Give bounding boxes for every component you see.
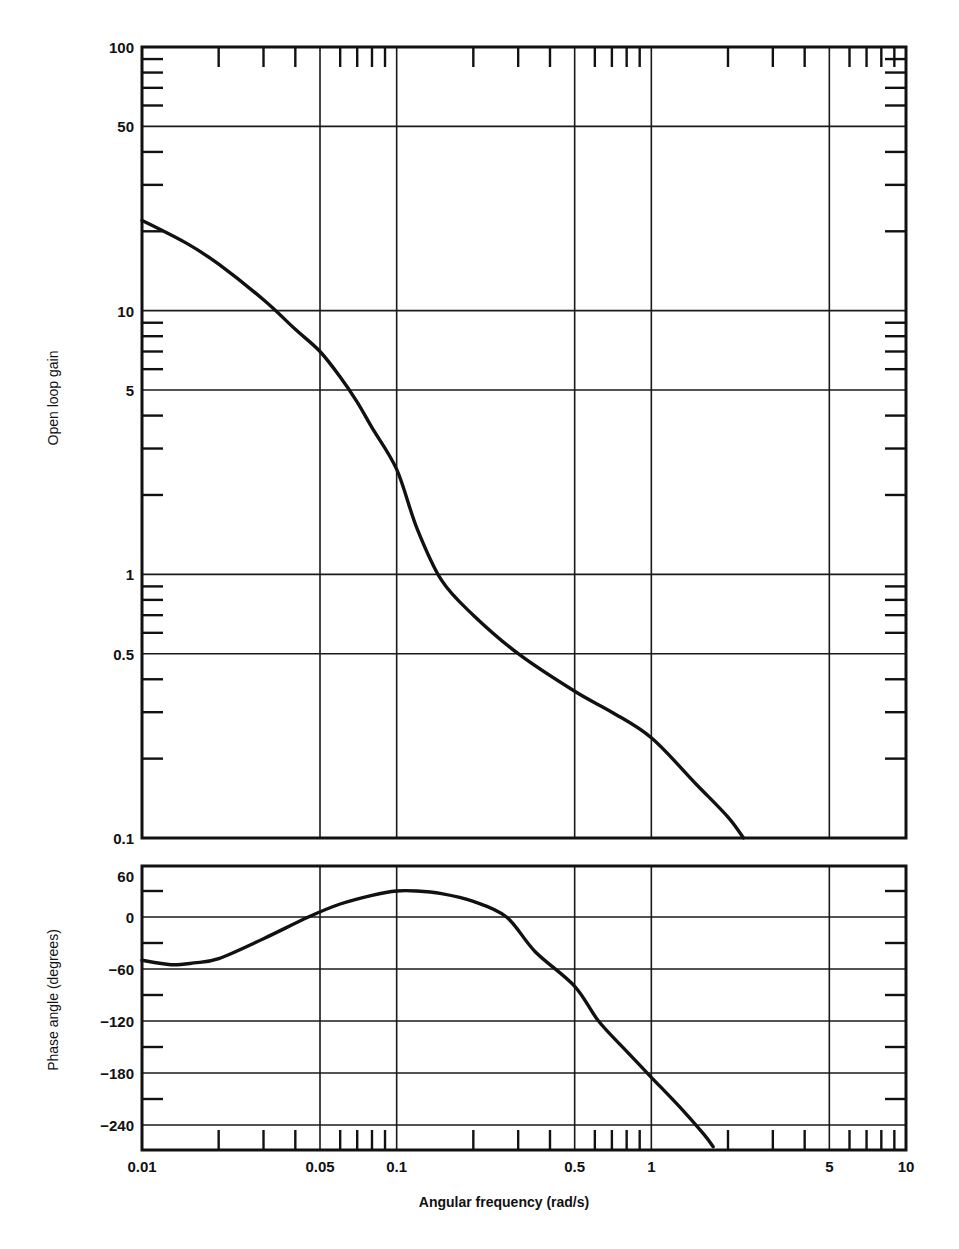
x-tick-label: 0.05: [305, 1158, 334, 1175]
x-axis-title: Angular frequency (rad/s): [419, 1194, 589, 1210]
phase-y-tick-label: −120: [100, 1013, 134, 1030]
gain-y-tick-label: 100: [109, 39, 134, 56]
gain-curve: [142, 220, 744, 838]
gain-y-tick-label: 1: [126, 566, 134, 583]
phase-panel: 600−60−120−180−240 Phase angle (degrees): [45, 866, 906, 1150]
bode-plot: 1005010510.50.1 Open loop gain 600−60−12…: [0, 0, 959, 1249]
gain-grid: [142, 47, 906, 838]
phase-curve: [142, 891, 713, 1147]
gain-y-tick-label: 5: [126, 382, 134, 399]
gain-frame: [142, 47, 906, 838]
gain-y-tick-label: 0.5: [113, 646, 134, 663]
x-tick-label: 0.01: [127, 1158, 156, 1175]
x-tick-label: 10: [898, 1158, 915, 1175]
x-tick-labels: 0.010.050.10.51510: [127, 1158, 914, 1175]
phase-y-tick-label: 0: [126, 909, 134, 926]
gain-y-tick-label: 0.1: [113, 830, 134, 847]
gain-y-axis-title: Open loop gain: [45, 351, 61, 446]
gain-y-tick-label: 50: [117, 118, 134, 135]
phase-grid: [142, 866, 906, 1150]
x-tick-label: 5: [825, 1158, 833, 1175]
phase-y-tick-label: −60: [109, 961, 134, 978]
gain-panel: 1005010510.50.1 Open loop gain: [45, 39, 906, 847]
phase-y-tick-label: 60: [117, 868, 134, 885]
phase-y-axis-title: Phase angle (degrees): [45, 929, 61, 1071]
phase-y-tick-labels: 600−60−120−180−240: [100, 868, 134, 1134]
phase-y-tick-label: −240: [100, 1117, 134, 1134]
phase-y-tick-label: −180: [100, 1065, 134, 1082]
gain-y-tick-labels: 1005010510.50.1: [109, 39, 134, 847]
x-tick-label: 1: [647, 1158, 655, 1175]
phase-frame: [142, 866, 906, 1150]
gain-y-tick-label: 10: [117, 303, 134, 320]
gain-minor-ticks: [142, 47, 906, 759]
x-tick-label: 0.1: [386, 1158, 407, 1175]
x-tick-label: 0.5: [564, 1158, 585, 1175]
